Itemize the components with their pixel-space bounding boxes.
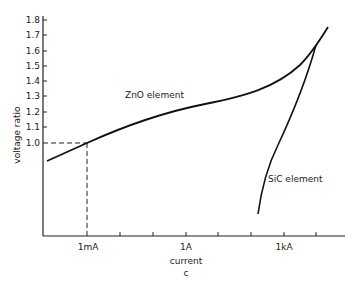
svg-text:1mA: 1mA (78, 242, 99, 252)
svg-text:1.1: 1.1 (26, 122, 40, 132)
y-tick-labels: 1.8 1.7 1.6 1.5 1.4 1.3 1.2 1.1 1.0 (26, 15, 41, 148)
zno-curve (47, 27, 328, 161)
svg-text:1kA: 1kA (275, 242, 293, 252)
svg-text:1.3: 1.3 (26, 91, 40, 101)
svg-text:1.0: 1.0 (26, 138, 41, 148)
y-axis-title: voltage ratio (12, 106, 22, 164)
sic-curve (258, 45, 316, 214)
sic-label: SiC element (268, 174, 323, 184)
svg-text:1.7: 1.7 (26, 30, 40, 40)
svg-text:1.5: 1.5 (26, 61, 40, 71)
svg-text:1A: 1A (180, 242, 193, 252)
x-axis-subtitle: c (184, 268, 189, 278)
chart: 1.8 1.7 1.6 1.5 1.4 1.3 1.2 1.1 1.0 1mA … (0, 0, 354, 290)
svg-text:1.8: 1.8 (26, 15, 41, 25)
svg-text:1.4: 1.4 (26, 76, 41, 86)
x-tick-labels: 1mA 1A 1kA (78, 242, 294, 252)
svg-text:1.2: 1.2 (26, 107, 40, 117)
svg-text:1.6: 1.6 (26, 46, 41, 56)
zno-label: ZnO element (125, 90, 184, 100)
x-axis-title: current (170, 256, 203, 266)
